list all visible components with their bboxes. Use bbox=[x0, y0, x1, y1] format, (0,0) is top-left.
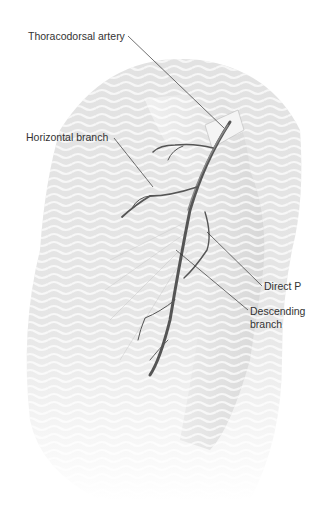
label-descending-branch-line1: Descending bbox=[250, 305, 305, 317]
label-descending-branch-line2: branch bbox=[250, 318, 282, 330]
label-thoracodorsal-artery: Thoracodorsal artery bbox=[28, 30, 125, 42]
label-direct-p: Direct P bbox=[264, 280, 301, 292]
label-horizontal-branch: Horizontal branch bbox=[26, 131, 108, 143]
anatomy-illustration bbox=[0, 0, 324, 510]
